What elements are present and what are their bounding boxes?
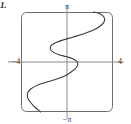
y-axis-top-label: π (65, 2, 69, 11)
graph-plot: π −π −4 4 (0, 0, 131, 124)
figure-container: 1. π −π −4 4 (0, 0, 131, 124)
x-axis-left-label: −4 (12, 57, 21, 66)
y-axis-bottom-label: −π (63, 115, 72, 124)
x-axis-right-label: 4 (118, 57, 122, 66)
